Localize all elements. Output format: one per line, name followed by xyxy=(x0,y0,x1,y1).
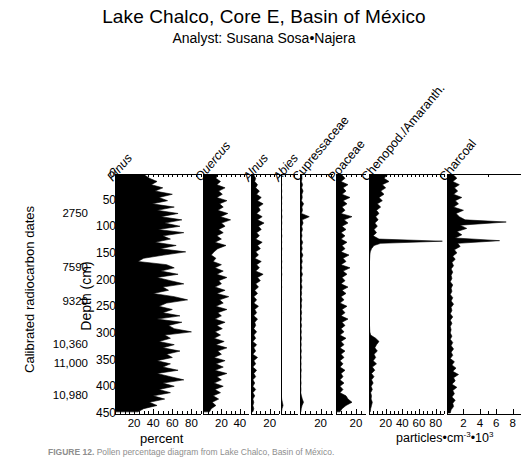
pollen-diagram-figure: Lake Chalco, Core E, Basin of México Ana… xyxy=(0,0,528,458)
axis-minor-tick xyxy=(326,411,327,414)
depth-tick-label: 300 xyxy=(86,326,116,340)
axis-minor-tick xyxy=(144,174,145,177)
radiocarbon-date: 9320 xyxy=(32,295,88,307)
axis-minor-tick xyxy=(148,411,149,414)
axis-major-tick xyxy=(356,409,357,414)
axis-minor-tick xyxy=(265,174,266,177)
taxon-panel-pinus[interactable]: Pinus20406080 xyxy=(115,174,201,414)
depth-tick-label: 400 xyxy=(86,379,116,393)
taxon-panel-chenopod-amaranth[interactable]: Chenopod./Amaranth.20406080 xyxy=(369,174,444,414)
axis-minor-tick xyxy=(125,411,126,414)
axis-minor-tick xyxy=(427,411,428,414)
taxon-panel-alnus[interactable]: Alnus20 xyxy=(251,174,279,414)
axis-minor-tick xyxy=(440,411,441,414)
axis-minor-tick xyxy=(231,174,232,177)
axis-minor-tick xyxy=(172,174,173,177)
taxon-panel-charcoal[interactable]: Charcoal2468 xyxy=(447,174,521,414)
taxon-curve xyxy=(203,174,249,414)
taxon-curve xyxy=(251,174,279,414)
depth-tick-label: 150 xyxy=(86,246,116,260)
axis-minor-tick xyxy=(386,174,387,177)
panel-bottom-axis xyxy=(251,414,279,415)
axis-minor-tick xyxy=(285,174,286,177)
axis-major-tick xyxy=(496,409,497,414)
axis-minor-tick xyxy=(394,411,395,414)
axis-minor-tick xyxy=(231,411,232,414)
axis-minor-tick xyxy=(305,411,306,414)
axis-minor-tick xyxy=(265,411,266,414)
axis-minor-tick xyxy=(120,174,121,177)
axis-minor-tick xyxy=(310,174,311,177)
axis-minor-tick xyxy=(432,411,433,414)
axis-minor-tick xyxy=(235,174,236,177)
taxon-label: Chenopod./Amaranth. xyxy=(358,81,447,184)
taxon-curve xyxy=(300,174,333,414)
panel-bottom-axis xyxy=(447,414,521,415)
axis-minor-tick xyxy=(182,174,183,177)
axis-minor-tick xyxy=(158,411,159,414)
depth-tick-label: 250 xyxy=(86,299,116,313)
axis-major-tick xyxy=(386,409,387,414)
depth-tick-label: 100 xyxy=(86,219,116,233)
axis-minor-tick xyxy=(411,411,412,414)
axis-minor-tick xyxy=(139,174,140,177)
axis-minor-tick xyxy=(129,411,130,414)
axis-major-tick xyxy=(270,409,271,414)
panel-top-axis xyxy=(447,174,521,175)
axis-minor-tick xyxy=(148,174,149,177)
taxon-panel-poaceae[interactable]: Poaceae20 xyxy=(336,174,366,414)
taxon-panel-cupressaceae[interactable]: Cupressaceae20 xyxy=(300,174,333,414)
figure-subtitle: Analyst: Susana Sosa•Najera xyxy=(0,30,528,46)
axis-minor-tick xyxy=(321,174,322,177)
taxon-curve xyxy=(447,174,521,414)
axis-tick-label: 80 xyxy=(423,417,449,429)
axis-minor-tick xyxy=(356,174,357,177)
axis-minor-tick xyxy=(444,411,445,414)
figure-caption-text: Pollen percentage diagram from Lake Chal… xyxy=(97,447,335,457)
axis-minor-tick xyxy=(390,411,391,414)
axis-minor-tick xyxy=(331,411,332,414)
axis-minor-tick xyxy=(221,174,222,177)
axis-minor-tick xyxy=(187,174,188,177)
axis-tick-label: 20 xyxy=(257,417,283,429)
radiocarbon-date: 2750 xyxy=(32,207,88,219)
axis-tick-label: 20 xyxy=(343,417,369,429)
axis-minor-tick xyxy=(346,411,347,414)
axis-minor-tick xyxy=(346,174,347,177)
axis-major-tick xyxy=(153,409,154,414)
axis-minor-tick xyxy=(144,411,145,414)
axis-minor-tick xyxy=(423,174,424,177)
charcoal-units-mid: •10 xyxy=(471,431,489,445)
axis-major-tick xyxy=(240,409,241,414)
axis-minor-tick xyxy=(290,411,291,414)
axis-minor-tick xyxy=(351,411,352,414)
panel-bottom-axis xyxy=(115,414,201,415)
axis-minor-tick xyxy=(120,411,121,414)
depth-tick-label: 50 xyxy=(86,193,116,207)
panel-bottom-axis xyxy=(203,414,249,415)
axis-minor-tick xyxy=(212,411,213,414)
axis-minor-tick xyxy=(196,411,197,414)
axis-minor-tick xyxy=(407,174,408,177)
axis-minor-tick xyxy=(341,174,342,177)
panel-bottom-axis xyxy=(281,414,298,415)
taxon-panel-quercus[interactable]: Quercus2040 xyxy=(203,174,249,414)
axis-minor-tick xyxy=(256,174,257,177)
panel-bottom-axis xyxy=(300,414,333,415)
axis-minor-tick xyxy=(129,174,130,177)
charcoal-units-exp1: -3 xyxy=(464,430,471,439)
axis-minor-tick xyxy=(168,174,169,177)
axis-minor-tick xyxy=(361,411,362,414)
axis-minor-tick xyxy=(382,411,383,414)
taxon-panel-abies[interactable]: Abies xyxy=(281,174,298,414)
depth-tick-label: 350 xyxy=(86,353,116,367)
axis-minor-tick xyxy=(163,174,164,177)
figure-caption: FIGURE 12. Pollen percentage diagram fro… xyxy=(48,447,488,458)
axis-major-tick xyxy=(419,409,420,414)
axis-minor-tick xyxy=(226,411,227,414)
taxon-curve xyxy=(115,174,201,414)
axis-minor-tick xyxy=(182,411,183,414)
axis-minor-tick xyxy=(244,411,245,414)
axis-minor-tick xyxy=(256,411,257,414)
depth-tick-label: 450 xyxy=(86,406,116,420)
